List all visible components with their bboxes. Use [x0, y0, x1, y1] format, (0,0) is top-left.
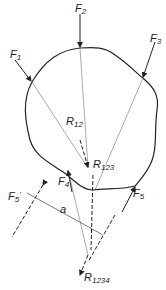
label-r1234: R1234 [84, 271, 110, 285]
resultant-r123 [91, 175, 93, 250]
label-r123: R123 [93, 158, 115, 172]
label-dimension-a: a [60, 203, 66, 215]
label-r12: R12 [66, 115, 83, 129]
rigid-body-outline [25, 48, 157, 190]
label-f5: F5 [133, 187, 145, 201]
label-f5prime: F5' [8, 190, 21, 204]
label-f1: F1 [10, 48, 21, 62]
force-arrow-f3 [143, 42, 155, 77]
label-f4: F4 [58, 175, 70, 189]
label-f2: F2 [75, 2, 87, 16]
label-f3: F3 [150, 32, 162, 46]
construction-lines [32, 48, 143, 255]
force-diagram: F1 F2 F3 F4 F5 F5' R12 R123 R1234 a [0, 0, 166, 290]
force-arrow-f1 [15, 60, 31, 81]
force-line-f5prime [12, 185, 43, 237]
dashed-line-right [88, 215, 115, 262]
